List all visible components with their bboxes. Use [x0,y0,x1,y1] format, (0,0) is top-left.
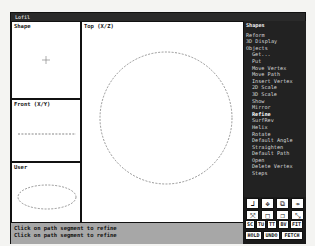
pan-arrow-icon[interactable]: ⇸ [291,198,304,209]
fit-button[interactable]: FIT [290,220,303,229]
menu-item-straighten[interactable]: Straighten [246,144,304,151]
status-line-2: Click on path segment to refine [14,232,241,239]
viewport-user[interactable]: User [11,162,81,223]
menu-item-2d-scale[interactable]: 2D Scale [246,84,304,91]
menu-item-delete-vertex[interactable]: Delete Vertex [246,163,304,170]
menu-item-3d-display[interactable]: 3D Display [246,38,304,45]
status-line-1: Click on path segment to refine [14,225,241,232]
lofter-screen: Lofil Shape Top (X/Z) Front (X/Y) User S… [10,12,306,244]
menu-item-default-angle[interactable]: Default Angle [246,137,304,144]
menu-item-steps[interactable]: Steps [246,170,304,177]
menu-item-helix[interactable]: Helix [246,124,304,131]
menu-item-objects[interactable]: Objects [246,45,304,52]
sc-button[interactable]: SC [245,220,255,229]
move-icon[interactable]: ✥ [261,198,274,209]
menu-item-reform[interactable]: Reform [246,32,304,39]
menu-item-insert-vertex[interactable]: Insert Vertex [246,78,304,85]
menu-item-get[interactable]: Get... [246,51,304,58]
menu-item-rotate[interactable]: Rotate [246,131,304,138]
bv-button[interactable]: BV [278,220,289,229]
tu-button[interactable]: TU [256,220,266,229]
menu-item-refine[interactable]: Refine [246,111,304,118]
viewport-label: Shape [14,23,31,29]
menu-item-put[interactable]: Put [246,58,304,65]
axis-icon[interactable]: ⅃ [246,198,259,209]
viewport-top[interactable]: Top (X/Z) [81,21,244,223]
path-ellipse [12,163,82,224]
crosshair-icon [42,56,50,64]
viewport-shape[interactable]: Shape [11,21,81,99]
menu-item-open[interactable]: Open [246,157,304,164]
path-circle [82,22,245,224]
undo-button[interactable]: UNDO [263,231,280,240]
command-menu: Shapes Reform 3D Display Objects Get... … [244,21,306,197]
menu-item-show[interactable]: Show [246,98,304,105]
title-bar: Lofil [11,13,305,21]
menu-header[interactable]: Shapes [246,22,304,29]
hold-button[interactable]: HOLD [245,231,262,240]
menu-item-surfrev[interactable]: SurfRev [246,117,304,124]
button-panel: SC TU TT BV FIT HOLD UNDO FETCH [243,219,305,244]
menu-item-move-path[interactable]: Move Path [246,71,304,78]
menu-item-default-path[interactable]: Default Path [246,150,304,157]
tt-button[interactable]: TT [267,220,277,229]
fetch-button[interactable]: FETCH [281,231,303,240]
status-bar: Click on path segment to refine Click on… [11,223,244,244]
menu-item-move-vertex[interactable]: Move Vertex [246,65,304,72]
menu-item-3d-scale[interactable]: 3D Scale [246,91,304,98]
viewport-front[interactable]: Front (X/Y) [11,99,81,162]
menu-item-mirror[interactable]: Mirror [246,104,304,111]
zoom-box-icon[interactable]: ⧉ [276,198,289,209]
path-line [12,100,82,163]
